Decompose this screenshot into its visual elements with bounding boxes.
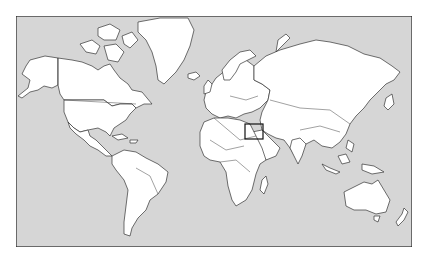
world-map-svg <box>16 16 412 247</box>
world-map <box>16 16 412 247</box>
